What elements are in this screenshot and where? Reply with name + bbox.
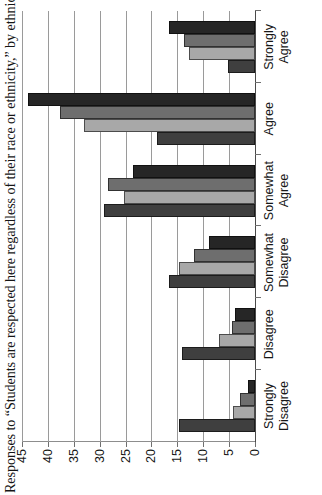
value-tick-label-20: 20 — [144, 449, 158, 463]
category-label-line-0: Disagree — [262, 298, 277, 370]
bar — [60, 106, 255, 119]
value-tick-label-10: 10 — [196, 449, 210, 463]
value-tick-label-5: 5 — [222, 449, 236, 456]
bar — [209, 236, 255, 249]
bar — [184, 34, 255, 47]
bar — [233, 406, 255, 419]
bar — [179, 262, 255, 275]
value-tick-label-30: 30 — [93, 449, 107, 463]
value-tick-mark-30 — [100, 442, 101, 447]
bar — [169, 275, 255, 288]
category-label-line-0: Somewhat — [262, 227, 277, 299]
value-tick-mark-15 — [177, 442, 178, 447]
chart-figure: Responses to “Students are respected her… — [0, 0, 322, 495]
category-label: SomewhatAgree — [262, 155, 291, 227]
value-tick-mark-35 — [74, 442, 75, 447]
bar-group — [22, 227, 255, 299]
bar-group — [22, 370, 255, 442]
bar — [182, 347, 255, 360]
bar — [248, 380, 255, 393]
bar — [157, 132, 255, 145]
bar — [194, 249, 255, 262]
value-tick-mark-40 — [48, 442, 49, 447]
value-tick-label-40: 40 — [41, 449, 55, 463]
plot-area: 051015202530354045 — [22, 11, 255, 442]
bar-group — [22, 83, 255, 155]
category-label-line-1: Agree — [277, 11, 292, 83]
value-tick-label-15: 15 — [170, 449, 184, 463]
bar — [104, 204, 255, 217]
category-label-line-0: Strongly — [262, 11, 277, 83]
category-label-line-1: Disagree — [277, 370, 292, 442]
bar — [240, 393, 255, 406]
bar — [179, 419, 255, 432]
value-tick-mark-25 — [126, 442, 127, 447]
bar — [235, 308, 255, 321]
category-label: Agree — [262, 83, 277, 155]
chart-title: Responses to “Students are respected her… — [2, 0, 18, 495]
value-tick-mark-5 — [229, 442, 230, 447]
value-tick-mark-10 — [203, 442, 204, 447]
bar — [28, 93, 255, 106]
category-label-line-0: Somewhat — [262, 155, 277, 227]
bar-group — [22, 155, 255, 227]
category-separator — [255, 82, 261, 83]
bar — [228, 60, 255, 73]
category-label-line-0: Strongly — [262, 370, 277, 442]
bar — [133, 165, 255, 178]
category-separator — [255, 154, 261, 155]
category-label: StronglyDisagree — [262, 370, 291, 442]
category-label-line-1: Agree — [277, 155, 292, 227]
bar — [189, 47, 255, 60]
bar — [169, 21, 255, 34]
bar — [219, 334, 255, 347]
bar — [124, 191, 256, 204]
category-separator-end — [255, 10, 261, 11]
value-tick-label-45: 45 — [15, 449, 29, 463]
category-separator — [255, 369, 261, 370]
value-tick-mark-45 — [22, 442, 23, 447]
bar-group — [22, 11, 255, 83]
category-separator — [255, 226, 261, 227]
value-tick-label-25: 25 — [119, 449, 133, 463]
value-tick-label-0: 0 — [248, 449, 262, 456]
category-label: SomewhatDisagree — [262, 227, 291, 299]
value-tick-mark-20 — [151, 442, 152, 447]
bar — [108, 178, 255, 191]
category-axis-line — [255, 11, 256, 442]
bar-group — [22, 298, 255, 370]
rotated-figure-wrapper: Responses to “Students are respected her… — [0, 0, 322, 495]
category-label-line-0: Agree — [262, 83, 277, 155]
category-separator — [255, 297, 261, 298]
category-label-line-1: Disagree — [277, 227, 292, 299]
category-label: Disagree — [262, 298, 277, 370]
bar — [84, 119, 255, 132]
bar — [232, 321, 255, 334]
value-tick-mark-0 — [255, 442, 256, 447]
value-tick-label-35: 35 — [67, 449, 81, 463]
category-label: StronglyAgree — [262, 11, 291, 83]
